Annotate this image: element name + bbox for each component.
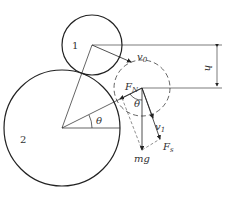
v1-label: v1	[155, 121, 165, 134]
theta-center-label: θ	[96, 115, 102, 126]
fs-label: Fs	[162, 141, 174, 154]
v1-arrow	[142, 88, 153, 118]
diagram-canvas: 1 2 v0 FN θ θ v1 Fs mg h	[0, 0, 231, 197]
v0-arrow	[92, 45, 131, 62]
circle-2-label: 2	[20, 134, 26, 145]
theta-arc-center	[89, 115, 92, 128]
v0-label: v0	[137, 51, 148, 64]
h-label: h	[203, 65, 214, 71]
circle-1-label: 1	[72, 40, 78, 51]
theta-force-label: θ	[134, 98, 140, 109]
dashed-component-2	[142, 139, 160, 150]
fn-label: FN	[124, 81, 139, 94]
mg-label: mg	[134, 153, 150, 164]
